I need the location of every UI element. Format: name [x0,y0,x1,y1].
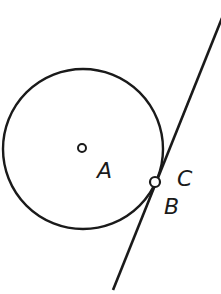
center-point-A [78,144,86,152]
label-A: A [95,158,112,183]
label-C: C [177,166,193,191]
line-through-B-C [113,18,221,290]
intersection-point-B [150,177,160,187]
diagram-canvas: A C B [0,0,221,294]
label-B: B [164,194,179,219]
